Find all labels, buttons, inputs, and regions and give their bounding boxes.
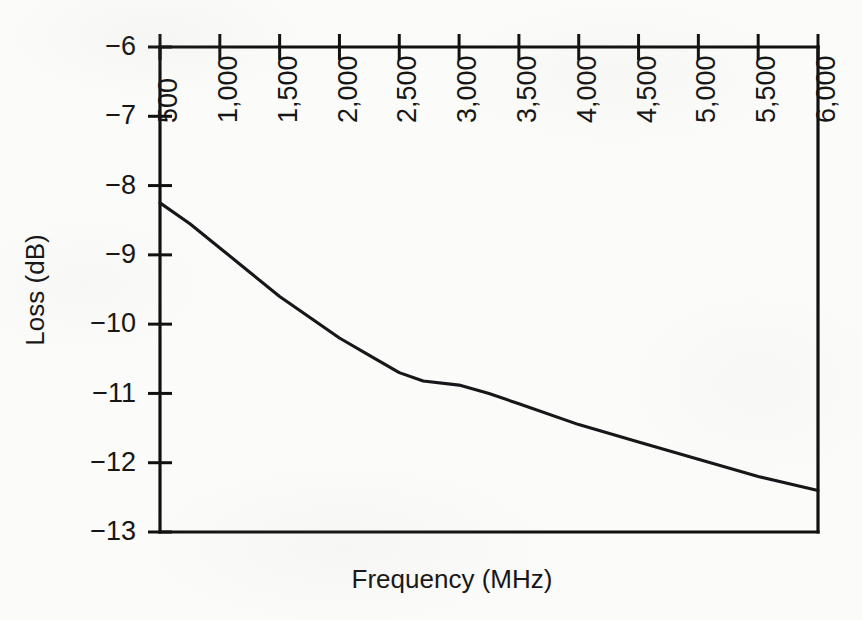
y-tick-label: −8 (105, 170, 136, 200)
x-tick-label: 1,000 (213, 55, 243, 123)
x-tick-label: 5,500 (751, 55, 781, 123)
x-tick-label: 4,000 (572, 55, 602, 123)
y-tick-label: −11 (92, 378, 136, 408)
y-tick-label: −13 (90, 516, 136, 546)
y-tick-label: −9 (105, 239, 136, 269)
data-series-group (160, 203, 818, 491)
x-tick-label: 5,000 (691, 55, 721, 123)
x-tick-label: 6,000 (811, 55, 841, 123)
y-tick-label: −10 (90, 308, 136, 338)
y-tick-label: −6 (105, 31, 136, 61)
y-tick-label: −12 (90, 447, 136, 477)
x-tick-label: 2,000 (333, 55, 363, 123)
x-tick-label: 4,500 (632, 55, 662, 123)
y-tick-label: −7 (105, 100, 136, 130)
x-tick-label: 3,500 (512, 55, 542, 123)
x-tick-label: 2,500 (392, 55, 422, 123)
x-tick-label: 500 (153, 78, 183, 123)
y-axis-title: Loss (dB) (20, 234, 50, 345)
x-tick-label: 3,000 (452, 55, 482, 123)
chart-figure: −6−7−8−9−10−11−12−13 5001,0001,5002,0002… (0, 0, 862, 620)
x-axis-title: Frequency (MHz) (352, 564, 553, 594)
loss-vs-frequency-chart: −6−7−8−9−10−11−12−13 5001,0001,5002,0002… (0, 0, 862, 620)
x-tick-label: 1,500 (273, 55, 303, 123)
loss-curve (160, 203, 818, 491)
